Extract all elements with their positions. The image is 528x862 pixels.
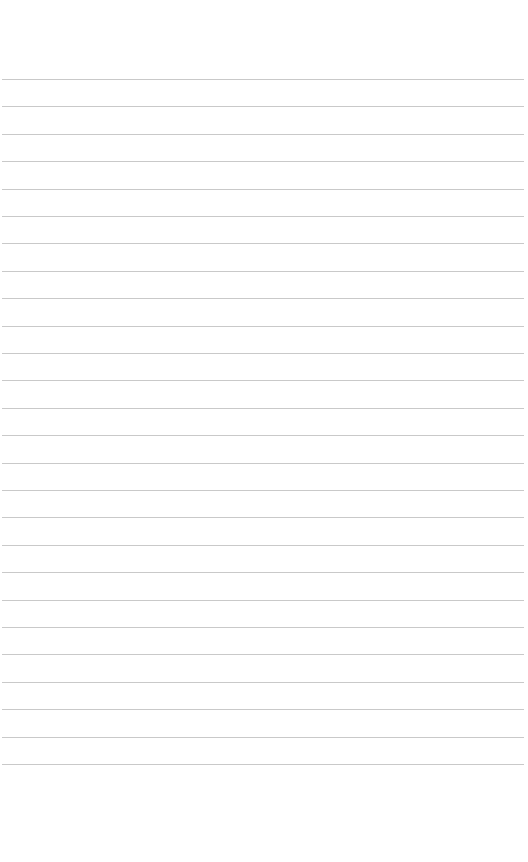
ruled-line <box>2 134 524 135</box>
ruled-line <box>2 600 524 601</box>
ruled-line <box>2 79 524 80</box>
ruled-line <box>2 216 524 217</box>
ruled-line <box>2 572 524 573</box>
ruled-line <box>2 764 524 765</box>
ruled-line <box>2 545 524 546</box>
ruled-page <box>0 0 528 862</box>
ruled-line <box>2 737 524 738</box>
ruled-line <box>2 654 524 655</box>
ruled-line <box>2 161 524 162</box>
ruled-line <box>2 326 524 327</box>
ruled-line <box>2 709 524 710</box>
ruled-line <box>2 243 524 244</box>
ruled-line <box>2 189 524 190</box>
ruled-line <box>2 682 524 683</box>
ruled-line <box>2 380 524 381</box>
ruled-line <box>2 490 524 491</box>
ruled-line <box>2 435 524 436</box>
ruled-line <box>2 627 524 628</box>
ruled-line <box>2 408 524 409</box>
ruled-line <box>2 106 524 107</box>
ruled-line <box>2 271 524 272</box>
ruled-line <box>2 298 524 299</box>
ruled-line <box>2 353 524 354</box>
ruled-line <box>2 517 524 518</box>
ruled-line <box>2 463 524 464</box>
